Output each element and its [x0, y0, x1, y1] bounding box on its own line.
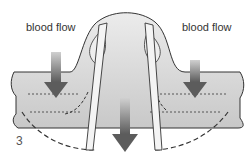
blood-flow-label-left: blood flow: [26, 21, 76, 33]
figure-number: 3: [16, 134, 23, 148]
blood-flow-label-right: blood flow: [182, 21, 232, 33]
